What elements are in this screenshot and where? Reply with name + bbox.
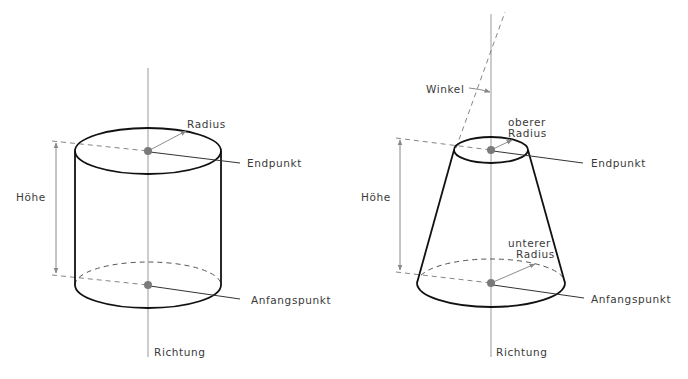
cone-lower-radius-label-line2: Radius (516, 248, 555, 260)
cylinder-endpoint-label: Endpunkt (247, 157, 302, 169)
cone-top-extension-line (396, 138, 491, 150)
cone-slant-extension-line (456, 12, 505, 148)
cone-startpoint-leader (493, 285, 584, 298)
cylinder-figure: Radius Endpunkt Anfangspunkt Höhe Richtu… (16, 68, 331, 358)
cylinder-direction-label: Richtung (154, 346, 206, 358)
cone-upper-radius-label-line2: Radius (508, 127, 547, 139)
cylinder-radius-arrow (148, 131, 186, 151)
cylinder-top-extension-line (52, 141, 148, 151)
cylinder-startpoint-marker (144, 281, 152, 289)
cylinder-cone-diagram: Radius Endpunkt Anfangspunkt Höhe Richtu… (0, 0, 688, 379)
cylinder-radius-label: Radius (187, 118, 226, 130)
cone-endpoint-marker (487, 146, 495, 154)
cone-right-side (528, 150, 565, 283)
cone-figure: Winkel oberer Radius unterer Radius Endp… (361, 12, 671, 358)
cone-endpoint-label: Endpunkt (591, 157, 646, 169)
cone-height-label: Höhe (361, 191, 391, 203)
cylinder-height-label: Höhe (16, 191, 46, 203)
cone-startpoint-marker (487, 279, 495, 287)
cylinder-endpoint-leader (150, 152, 240, 163)
cone-angle-dimension (469, 88, 490, 92)
cone-angle-label: Winkel (426, 83, 464, 95)
cylinder-startpoint-label: Anfangspunkt (251, 294, 331, 306)
cylinder-startpoint-leader (150, 286, 240, 299)
cone-startpoint-label: Anfangspunkt (591, 293, 671, 305)
cylinder-bottom-extension-line (52, 275, 148, 285)
cone-direction-label: Richtung (496, 346, 548, 358)
cone-lower-radius-arrow (491, 264, 535, 283)
cone-bottom-extension-line (396, 272, 491, 283)
cylinder-endpoint-marker (144, 147, 152, 155)
